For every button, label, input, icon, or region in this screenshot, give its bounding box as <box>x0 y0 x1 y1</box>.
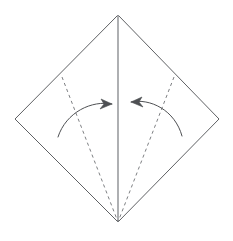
paper-outline-diamond <box>15 15 219 222</box>
origami-diagram-svg <box>0 0 233 241</box>
origami-diagram-canvas: Origami fold diagram Square rotated 45 d… <box>0 0 233 241</box>
